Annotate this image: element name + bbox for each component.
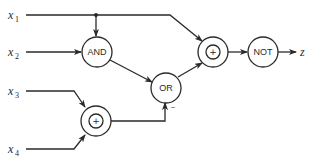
svg-text:x: x: [7, 142, 14, 156]
or-gate: OR –: [151, 73, 181, 110]
negated-input-mark: –: [171, 103, 175, 110]
svg-text:OR: OR: [159, 83, 173, 93]
svg-text:4: 4: [15, 149, 19, 158]
xor-bottom-gate: +: [81, 106, 111, 136]
svg-text:3: 3: [15, 91, 19, 100]
svg-text:NOT: NOT: [254, 47, 274, 57]
wire-x3-to-xor-bottom: [26, 91, 85, 107]
wire-and-to-or: [110, 60, 152, 82]
not-gate: NOT: [248, 37, 278, 67]
and-gate: AND: [82, 37, 112, 67]
input-x4-label: x 4: [7, 142, 19, 158]
wire-x1: [26, 15, 202, 41]
svg-text:1: 1: [15, 15, 19, 24]
wire-xor-bottom-to-or: [111, 103, 165, 121]
input-x1-label: x 1: [7, 8, 19, 24]
svg-text:+: +: [209, 47, 217, 57]
wire-or-to-xor-top: [178, 63, 202, 77]
input-x3-label: x 3: [7, 84, 19, 100]
xor-top-gate: +: [198, 37, 228, 67]
output-z-label: z: [299, 45, 305, 59]
svg-text:x: x: [7, 84, 14, 98]
input-x2-label: x 2: [7, 45, 19, 61]
svg-text:AND: AND: [87, 47, 107, 57]
svg-text:+: +: [92, 116, 100, 126]
svg-text:2: 2: [15, 52, 19, 61]
wire-x4-to-xor-bottom: [26, 135, 85, 149]
svg-text:x: x: [7, 45, 14, 59]
logic-circuit-diagram: x 1 x 2 x 3 x 4 AND OR –: [0, 0, 314, 162]
svg-text:x: x: [7, 8, 14, 22]
